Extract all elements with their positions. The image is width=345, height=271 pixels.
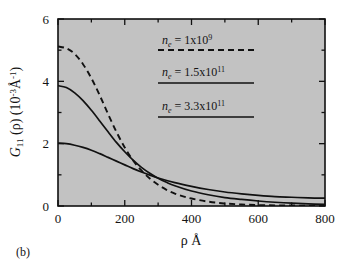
x-tick-label: 200 <box>115 211 135 226</box>
y-tick-label: 4 <box>43 74 50 89</box>
y-axis-title: G11 (ρ) (10-3Å-1) <box>8 66 25 157</box>
x-tick-label: 600 <box>249 211 269 226</box>
figure-panel-b: 0200400600800 0246 ρ Å G11 (ρ) (10-3Å-1)… <box>0 0 345 271</box>
legend-label-3: ne = 3.3x1011 <box>162 99 225 116</box>
y-tick-label: 0 <box>43 199 50 214</box>
x-tick-labels: 0200400600800 <box>55 211 335 226</box>
x-axis-title: ρ Å <box>181 233 202 248</box>
x-tick-label: 400 <box>182 211 202 226</box>
chart-svg: 0200400600800 0246 ρ Å G11 (ρ) (10-3Å-1)… <box>0 0 345 271</box>
y-tick-label: 2 <box>43 136 50 151</box>
legend-label-2: ne = 1.5x1011 <box>162 65 225 82</box>
x-tick-label: 800 <box>315 211 335 226</box>
panel-label: (b) <box>16 245 30 259</box>
y-tick-labels: 0246 <box>43 12 50 214</box>
x-tick-label: 0 <box>55 211 62 226</box>
y-tick-label: 6 <box>43 12 50 27</box>
